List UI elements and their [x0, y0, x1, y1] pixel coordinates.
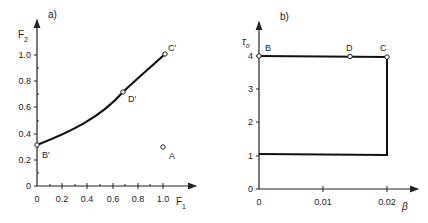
point-b — [257, 54, 261, 58]
curve-a — [37, 54, 165, 145]
svg-text:3: 3 — [248, 84, 253, 94]
svg-text:0.8: 0.8 — [132, 194, 145, 204]
svg-text:0.01: 0.01 — [314, 197, 332, 207]
label-d-prime: D' — [128, 94, 136, 104]
x-axis-label-a: F1 — [176, 196, 186, 210]
y-axis-label-b: τo — [242, 36, 250, 49]
svg-text:4: 4 — [248, 51, 253, 61]
label-b: B — [265, 43, 271, 53]
label-a: A — [169, 151, 175, 161]
svg-text:0.4: 0.4 — [81, 194, 94, 204]
svg-text:0.8: 0.8 — [18, 76, 31, 86]
svg-text:0.02: 0.02 — [378, 197, 396, 207]
svg-text:1.0: 1.0 — [18, 50, 31, 60]
svg-text:0: 0 — [248, 184, 253, 194]
panel-b-label: b) — [280, 11, 289, 22]
boundary-b — [259, 56, 387, 155]
svg-text:0.6: 0.6 — [107, 194, 120, 204]
panel-a-label: a) — [48, 9, 57, 20]
svg-text:0.2: 0.2 — [56, 194, 69, 204]
point-c — [385, 55, 389, 59]
label-c: C — [380, 43, 387, 53]
point-b-prime — [35, 143, 39, 147]
label-d: D — [346, 43, 353, 53]
svg-text:1.0: 1.0 — [157, 194, 170, 204]
svg-text:0: 0 — [34, 194, 39, 204]
svg-text:1: 1 — [248, 151, 253, 161]
label-c-prime: C' — [168, 43, 176, 53]
svg-text:2: 2 — [248, 117, 253, 127]
y-ticks-a: 0 0.2 0.4 0.6 0.8 1.0 — [18, 50, 39, 191]
svg-text:0.4: 0.4 — [18, 129, 31, 139]
svg-text:0.6: 0.6 — [18, 102, 31, 112]
y-ticks-b: 0 1 2 3 4 — [248, 51, 259, 194]
svg-text:0: 0 — [256, 197, 261, 207]
svg-text:0: 0 — [26, 181, 31, 191]
figure: a) F2 F1 0 0.2 0.4 0.6 0.8 1.0 — [0, 0, 428, 223]
x-axis-label-b: β — [401, 201, 408, 212]
y-axis-label-a: F2 — [18, 29, 28, 43]
point-c-prime — [163, 52, 167, 56]
label-b-prime: B' — [42, 150, 50, 160]
point-d-prime — [121, 90, 125, 94]
point-d — [348, 54, 352, 58]
chart-a: a) F2 F1 0 0.2 0.4 0.6 0.8 1.0 — [18, 9, 196, 210]
point-a — [161, 145, 165, 149]
chart-b: b) τo β 0 1 2 3 4 0 0.01 0.02 — [242, 11, 418, 212]
svg-text:0.2: 0.2 — [18, 155, 31, 165]
